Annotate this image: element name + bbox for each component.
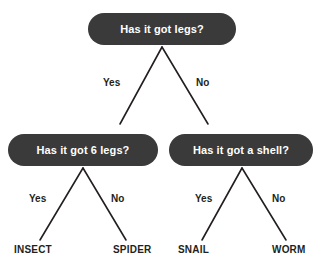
- leaf-label-snail: SNAIL: [178, 245, 209, 255]
- edge-label-root-yes: Yes: [103, 78, 120, 88]
- leaf-label-worm: WORM: [272, 245, 306, 255]
- edge-label-root-no: No: [196, 78, 209, 88]
- edge-line-right-yes: [202, 168, 242, 240]
- edge-label-shell-yes: Yes: [195, 194, 212, 204]
- decision-node-root-label: Has it got legs?: [120, 24, 204, 35]
- edge-line-right-no: [242, 168, 286, 240]
- edge-line-left-yes: [40, 168, 83, 240]
- decision-node-six-legs-label: Has it got 6 legs?: [37, 145, 130, 156]
- leaf-label-spider: SPIDER: [113, 245, 151, 255]
- edge-label-shell-no: No: [272, 194, 285, 204]
- leaf-label-insect: INSECT: [14, 245, 52, 255]
- decision-node-shell-label: Has it got a shell?: [193, 145, 289, 156]
- decision-node-shell: Has it got a shell?: [169, 134, 313, 166]
- decision-node-six-legs: Has it got 6 legs?: [8, 134, 158, 166]
- edge-line-left-no: [83, 168, 126, 240]
- edge-label-six-legs-no: No: [111, 194, 124, 204]
- edge-line-root-yes: [120, 47, 162, 124]
- decision-node-root: Has it got legs?: [88, 13, 236, 45]
- edge-label-six-legs-yes: Yes: [29, 194, 46, 204]
- decision-tree-diagram: Has it got legs? Has it got 6 legs? Has …: [0, 0, 319, 265]
